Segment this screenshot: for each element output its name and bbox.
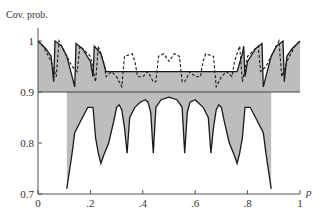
y-tick-label: 0.9 [20, 86, 34, 98]
y-tick-label: 0.8 [20, 137, 34, 149]
y-tick-label: 1 [29, 35, 35, 47]
x-tick-label: .6 [191, 197, 200, 209]
x-tick-label: .8 [243, 197, 252, 209]
x-tick-label: 0 [35, 197, 41, 209]
x-tick-label: .2 [86, 197, 94, 209]
coverage-probability-chart: Cov. prob. 0.2.4.6.8110.90.80.7 p [0, 0, 325, 215]
x-axis-label: p [305, 186, 312, 198]
shaded-area [67, 92, 271, 189]
y-axis-label: Cov. prob. [6, 9, 48, 20]
x-tick-label: .4 [139, 197, 148, 209]
y-tick-label: 0.7 [20, 188, 34, 200]
shaded-regions [38, 41, 300, 189]
x-tick-label: 1 [297, 197, 303, 209]
